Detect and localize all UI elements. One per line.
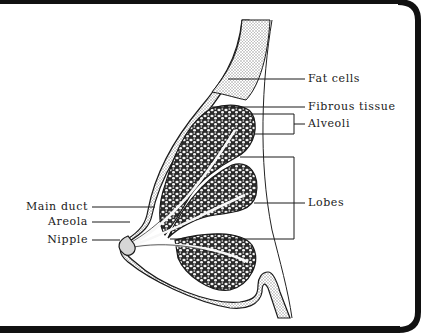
- breast-anatomy-drawing: [0, 0, 422, 333]
- label-nipple: Nipple: [10, 234, 88, 246]
- label-fat-cells: Fat cells: [308, 73, 360, 85]
- lower-lobe: [175, 234, 256, 290]
- label-main-duct: Main duct: [10, 201, 88, 213]
- label-lobes: Lobes: [308, 197, 344, 209]
- diagram-frame: Fat cells Fibrous tissue Alveoli Lobes M…: [0, 0, 422, 333]
- label-alveoli: Alveoli: [308, 118, 350, 130]
- label-areola: Areola: [10, 216, 88, 228]
- label-fibrous-tissue: Fibrous tissue: [308, 101, 396, 113]
